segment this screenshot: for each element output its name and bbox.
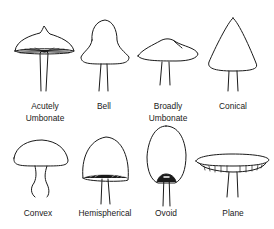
label-convex: Convex <box>3 207 73 219</box>
convex-illustration <box>14 140 68 197</box>
conical-illustration <box>209 18 257 91</box>
bell-illustration <box>81 20 129 91</box>
label-line: Hemispherical <box>70 207 140 219</box>
plane-illustration <box>196 154 269 197</box>
label-conical: Conical <box>198 100 268 112</box>
label-plane: Plane <box>198 207 268 219</box>
ovoid-illustration <box>147 126 186 206</box>
label-line: Broadly <box>133 100 203 112</box>
label-line: Umbonate <box>133 112 203 124</box>
label-broadly-umbonate: Broadly Umbonate <box>133 100 203 124</box>
label-hemispherical: Hemispherical <box>70 207 140 219</box>
label-line: Convex <box>3 207 73 219</box>
acutely-umbonate-illustration <box>15 26 74 91</box>
label-line: Umbonate <box>10 112 80 124</box>
label-ovoid: Ovoid <box>131 207 201 219</box>
label-line: Bell <box>69 100 139 112</box>
label-bell: Bell <box>69 100 139 112</box>
label-line: Ovoid <box>131 207 201 219</box>
label-line: Conical <box>198 100 268 112</box>
broadly-umbonate-illustration <box>138 39 198 85</box>
hemispherical-illustration <box>83 137 129 204</box>
label-line: Plane <box>198 207 268 219</box>
